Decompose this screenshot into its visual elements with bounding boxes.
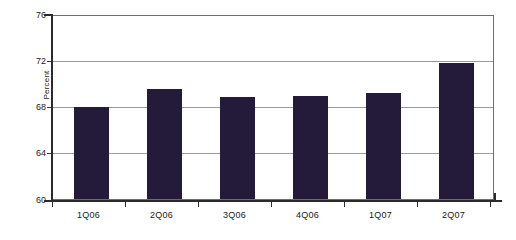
x-axis-label-1q06: 1Q06 — [53, 210, 124, 220]
gridline-64 — [53, 153, 493, 154]
y-axis-line — [51, 14, 53, 202]
plot-area — [52, 15, 494, 200]
x-axis-label-4q06: 4Q06 — [272, 210, 343, 220]
y-tick-label-72: 72 — [24, 57, 46, 66]
x-tick-mark-0 — [52, 201, 53, 207]
x-tick-mark-2 — [198, 201, 199, 207]
x-tick-mark-1 — [125, 201, 126, 207]
y-tick-label-76: 76 — [24, 11, 46, 20]
x-axis-label-2q07: 2Q07 — [418, 210, 489, 220]
x-axis-label-3q06: 3Q06 — [199, 210, 270, 220]
x-axis-label-2q06: 2Q06 — [126, 210, 197, 220]
bar-1q07 — [366, 93, 401, 199]
x-tick-mark-3 — [271, 201, 272, 207]
x-axis-label-1q07: 1Q07 — [345, 210, 416, 220]
bar-2q07 — [439, 63, 474, 199]
bar-4q06 — [293, 96, 328, 199]
y-tick-label-64: 64 — [24, 149, 46, 158]
x-tick-mark-5 — [417, 201, 418, 207]
y-tick-label-60: 60 — [24, 196, 46, 205]
gridline-68 — [53, 107, 493, 108]
y-tick-label-68: 68 — [24, 103, 46, 112]
gridline-72 — [53, 61, 493, 62]
x-tick-mark-6 — [490, 201, 491, 207]
bar-2q06 — [147, 89, 182, 199]
y-axis-labels: 76 72 68 64 60 — [24, 0, 46, 240]
x-axis-right-cap — [494, 193, 496, 202]
bar-1q06 — [74, 107, 109, 199]
bar-chart: Percent 76 72 68 64 60 — [0, 0, 516, 240]
bar-3q06 — [220, 97, 255, 199]
x-tick-mark-4 — [344, 201, 345, 207]
x-axis-line — [44, 200, 502, 202]
